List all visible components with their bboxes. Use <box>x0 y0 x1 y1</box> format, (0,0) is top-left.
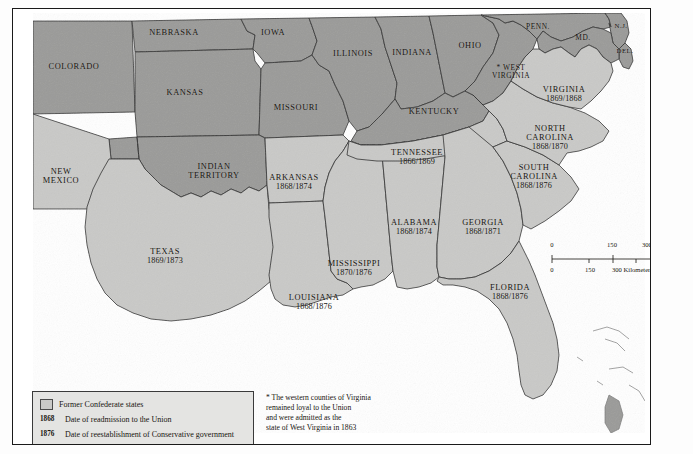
legend-conservative-label: Date of reestablishment of Conservative … <box>65 430 234 439</box>
scale-bar: 0 150 300 Miles 0 150 300 Kilometers <box>550 241 651 287</box>
confederate-fill-swatch <box>40 399 53 410</box>
state-nebraska <box>132 19 255 52</box>
historical-map: VIRGINIA1869/1868NORTH CAROLINA1868/1870… <box>0 0 693 454</box>
scale-miles-150: 150 <box>607 241 617 248</box>
scale-miles-0: 0 <box>550 241 553 248</box>
legend-row-conservative: 1876 Date of reestablishment of Conserva… <box>40 427 234 441</box>
scale-km-150: 150 <box>585 266 595 273</box>
legend-readmission-label: Date of readmission to the Union <box>65 415 171 424</box>
legend-readmission-key: 1868 <box>40 415 59 423</box>
scale-ruler <box>550 254 651 264</box>
legend-row-readmission: 1868 Date of readmission to the Union <box>40 412 171 426</box>
footnote-line-2: remained loyal to the Union <box>266 403 446 413</box>
map-frame: VIRGINIA1869/1868NORTH CAROLINA1868/1870… <box>12 8 651 445</box>
legend-confederate-label: Former Confederate states <box>59 400 143 409</box>
map-geometry <box>13 9 650 444</box>
state-colorado <box>33 21 135 114</box>
scale-miles-300: 300 Miles <box>642 241 651 248</box>
footnote-line-3: and were admitted as the <box>266 413 446 423</box>
west-virginia-footnote: * The western counties of Virginia remai… <box>266 393 446 433</box>
legend-conservative-key: 1876 <box>40 430 59 438</box>
scale-km-0: 0 <box>550 266 553 273</box>
legend-row-confederate: Former Confederate states <box>40 397 143 411</box>
map-legend: Former Confederate states 1868 Date of r… <box>32 391 254 445</box>
footnote-line-1: * The western counties of Virginia <box>266 393 446 403</box>
footnote-line-4: state of West Virginia in 1863 <box>266 423 446 433</box>
state-kansas <box>135 49 261 137</box>
scale-km-300: 300 Kilometers <box>612 266 651 273</box>
